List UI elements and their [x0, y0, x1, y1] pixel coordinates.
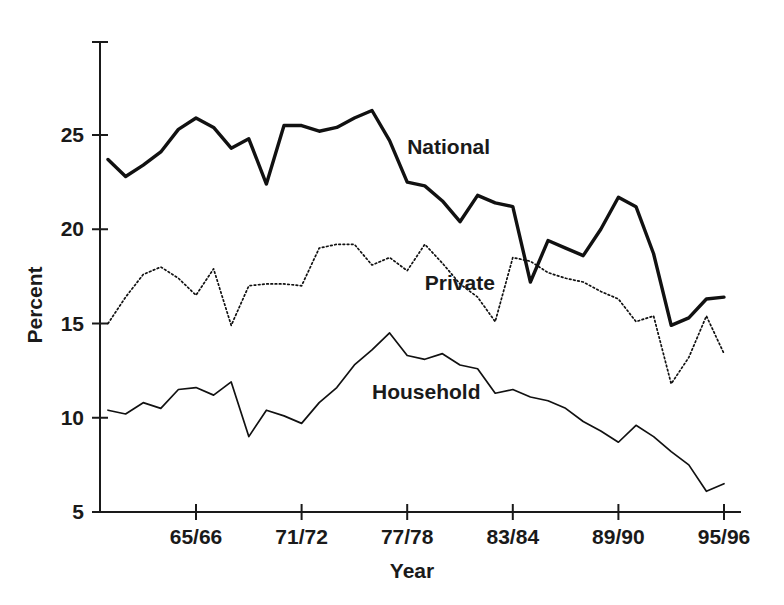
- series-label-national: National: [407, 135, 490, 158]
- y-tick-label: 10: [61, 406, 84, 429]
- y-axis: 252015105: [61, 42, 108, 523]
- y-axis-title: Percent: [23, 266, 46, 343]
- chart-container: 252015105 65/6671/7277/7883/8489/9095/96…: [0, 0, 784, 605]
- y-tick-label: 20: [61, 217, 84, 240]
- series-label-private: Private: [425, 271, 495, 294]
- x-axis-ticks: 65/6671/7277/7883/8489/9095/96: [100, 504, 750, 548]
- x-tick-label: 71/72: [275, 525, 328, 548]
- line-chart: 252015105 65/6671/7277/7883/8489/9095/96…: [0, 0, 784, 605]
- x-tick-label: 83/84: [487, 525, 540, 548]
- series-line-private: [108, 244, 724, 383]
- series-line-household: [108, 333, 724, 491]
- series-label-group: NationalPrivateHousehold: [372, 135, 495, 403]
- x-tick-label: 89/90: [592, 525, 645, 548]
- y-tick-label: 15: [61, 312, 85, 335]
- series-label-household: Household: [372, 380, 481, 403]
- x-axis-title: Year: [390, 559, 434, 582]
- x-tick-label: 77/78: [381, 525, 434, 548]
- x-tick-label: 95/96: [698, 525, 751, 548]
- data-series-group: [108, 110, 724, 491]
- y-tick-label: 5: [72, 500, 84, 523]
- y-tick-label: 25: [61, 123, 85, 146]
- x-axis: 65/6671/7277/7883/8489/9095/96: [100, 504, 750, 548]
- x-tick-label: 65/66: [170, 525, 223, 548]
